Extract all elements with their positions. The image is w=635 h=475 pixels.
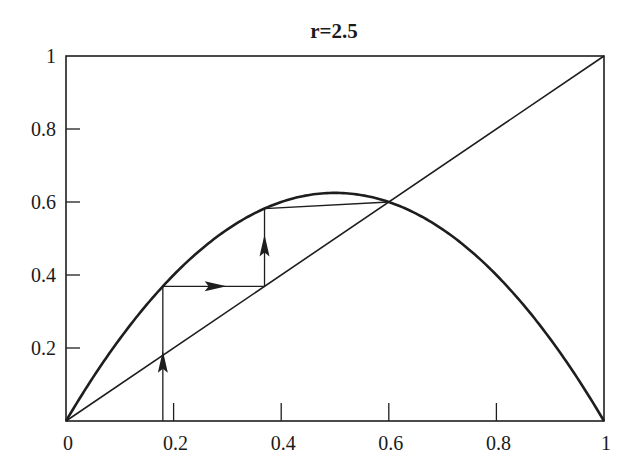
x-tick-label: 0.6 xyxy=(378,432,403,454)
x-axis: 00.20.40.60.81 xyxy=(63,403,611,454)
chart-title: r=2.5 xyxy=(310,19,358,43)
y-tick-label: 0.4 xyxy=(31,264,56,286)
cobweb-arrows xyxy=(158,234,270,372)
y-tick-label: 0.8 xyxy=(31,118,56,140)
y-tick-label: 0.2 xyxy=(31,337,56,359)
cobweb-chart: r=2.5 00.20.40.60.81 0.20.40.60.81 xyxy=(0,0,635,475)
x-tick-label: 0.4 xyxy=(271,432,296,454)
y-tick-label: 0.6 xyxy=(31,191,56,213)
y-tick-label: 1 xyxy=(46,45,56,67)
cobweb-path xyxy=(163,202,389,421)
x-tick-label: 0.8 xyxy=(486,432,511,454)
logistic-curve xyxy=(66,193,604,421)
x-tick-label: 0.2 xyxy=(163,432,188,454)
y-axis: 0.20.40.60.81 xyxy=(31,45,80,359)
x-tick-label: 1 xyxy=(601,432,611,454)
identity-line xyxy=(66,56,604,421)
x-tick-label: 0 xyxy=(63,432,73,454)
